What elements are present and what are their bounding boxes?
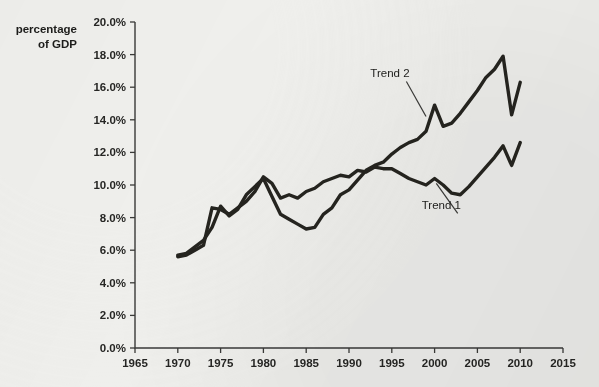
axis-lines <box>135 22 563 348</box>
x-tick-label: 2005 <box>465 357 491 369</box>
y-tick-label: 0.0% <box>100 342 126 354</box>
annotation-label-trend-1: Trend 1 <box>422 199 461 211</box>
y-tick-label: 2.0% <box>100 309 126 321</box>
x-tick-label: 1995 <box>379 357 405 369</box>
y-tick-label: 16.0% <box>93 81 126 93</box>
y-tick-label: 18.0% <box>93 49 126 61</box>
series-line-trend-1 <box>178 143 520 257</box>
y-axis-title-line2: of GDP <box>38 38 77 50</box>
y-tick-label: 8.0% <box>100 212 126 224</box>
x-tick-label: 1985 <box>293 357 319 369</box>
x-tick-label: 1980 <box>251 357 277 369</box>
annotation-label-trend-2: Trend 2 <box>370 67 409 79</box>
y-tick-label: 20.0% <box>93 16 126 28</box>
x-tick-label: 1990 <box>336 357 362 369</box>
y-axis-title-line1: percentage <box>16 23 77 35</box>
annotation-leader-line <box>406 81 426 116</box>
chart-figure: 0.0%2.0%4.0%6.0%8.0%10.0%12.0%14.0%16.0%… <box>0 0 599 387</box>
axis-group <box>135 22 563 348</box>
data-series-group <box>178 56 520 256</box>
y-tick-label: 12.0% <box>93 146 126 158</box>
series-line-trend-2 <box>178 56 520 255</box>
x-tick-label: 2010 <box>507 357 533 369</box>
x-tick-label: 2015 <box>550 357 576 369</box>
y-tick-label: 6.0% <box>100 244 126 256</box>
y-tick-label: 14.0% <box>93 114 126 126</box>
x-axis-ticks: 1965197019751980198519901995200020052010… <box>122 348 576 369</box>
line-chart: 0.0%2.0%4.0%6.0%8.0%10.0%12.0%14.0%16.0%… <box>0 0 599 387</box>
x-tick-label: 1970 <box>165 357 191 369</box>
x-tick-label: 1965 <box>122 357 148 369</box>
y-axis-title-group: percentageof GDP <box>16 23 78 50</box>
y-tick-label: 4.0% <box>100 277 126 289</box>
y-axis-ticks: 0.0%2.0%4.0%6.0%8.0%10.0%12.0%14.0%16.0%… <box>93 16 135 354</box>
y-tick-label: 10.0% <box>93 179 126 191</box>
x-tick-label: 1975 <box>208 357 234 369</box>
x-tick-label: 2000 <box>422 357 448 369</box>
